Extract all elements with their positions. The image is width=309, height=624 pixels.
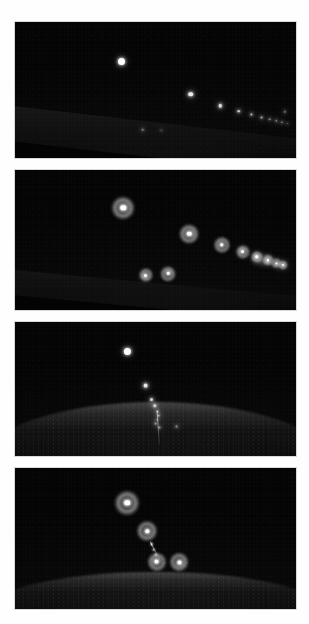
light-10 [176, 426, 177, 427]
light-8 [155, 423, 156, 424]
halo-1 [113, 489, 141, 517]
halo-4 [169, 552, 190, 573]
light-core [144, 274, 147, 277]
light-10 [287, 123, 288, 124]
panel-2-processed-halo-diagonal-sequence [15, 170, 296, 310]
panel-4-processed-halo-vertical-descent [15, 468, 296, 609]
light-4 [238, 111, 239, 112]
panel-1-raw-diagonal-sequence [15, 22, 296, 158]
light-core [220, 243, 224, 247]
night-sky-figure [0, 0, 309, 624]
light-core [237, 110, 240, 113]
light-2 [145, 385, 146, 386]
light-1 [127, 351, 128, 352]
light-core [241, 250, 244, 253]
light-core [156, 410, 158, 412]
light-3 [151, 399, 152, 400]
light-core [118, 58, 125, 65]
light-core [142, 129, 144, 131]
light-core [125, 500, 131, 506]
light-6 [261, 117, 262, 118]
light-5 [157, 411, 158, 412]
halo-2 [178, 223, 200, 245]
halo-1 [110, 195, 136, 221]
light-core [150, 398, 153, 401]
halo-3 [146, 551, 167, 572]
light-1 [121, 61, 122, 62]
light-core [282, 264, 284, 266]
inner-dot-1 [151, 543, 153, 545]
halo-4 [235, 244, 250, 259]
halo-8 [278, 260, 288, 270]
halo-ground-b [160, 265, 177, 282]
light-core [155, 560, 159, 564]
halo-ground-a [138, 268, 153, 283]
light-core [276, 120, 278, 122]
light-core [261, 116, 263, 118]
light-9 [281, 122, 282, 123]
light-5 [251, 114, 252, 115]
light-core [269, 118, 271, 120]
light-core [157, 415, 159, 417]
ground-light-c [284, 111, 285, 112]
inner-dot-2 [153, 549, 155, 551]
light-3 [220, 105, 221, 106]
light-core [156, 419, 158, 421]
light-core [160, 129, 162, 131]
light-8 [276, 120, 277, 121]
ground-light-b [161, 130, 162, 131]
ground-light-a [142, 129, 143, 130]
light-core [144, 384, 148, 388]
light-7 [269, 119, 270, 120]
light-2 [190, 94, 191, 95]
halo-3 [213, 236, 231, 254]
light-6 [158, 415, 159, 416]
light-4 [154, 405, 155, 406]
light-9 [159, 427, 160, 428]
light-core [189, 92, 194, 97]
light-core [155, 423, 157, 425]
panel-3-raw-vertical-descent [15, 322, 296, 456]
light-core [255, 256, 258, 259]
light-core [177, 560, 181, 564]
light-core [176, 426, 178, 428]
light-7 [157, 419, 158, 420]
halo-2 [136, 520, 159, 543]
